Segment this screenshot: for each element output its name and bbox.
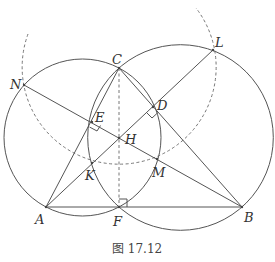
geometry-figure: C L N D E H K M A F B 图 17.12 bbox=[0, 0, 275, 262]
point-dots bbox=[23, 49, 243, 208]
label-a: A bbox=[34, 212, 44, 227]
label-l: L bbox=[214, 35, 224, 50]
right-angle-mark-d bbox=[147, 113, 158, 119]
label-f: F bbox=[112, 214, 123, 229]
label-c: C bbox=[112, 52, 122, 67]
segment-al bbox=[46, 50, 213, 207]
segment-bc bbox=[119, 68, 242, 207]
figure-caption: 图 17.12 bbox=[112, 242, 162, 256]
label-d: D bbox=[156, 98, 168, 113]
label-h: H bbox=[124, 132, 137, 147]
label-n: N bbox=[9, 77, 22, 92]
label-m: M bbox=[151, 165, 166, 180]
label-k: K bbox=[84, 168, 96, 183]
segment-ac bbox=[46, 68, 119, 207]
label-b: B bbox=[243, 210, 254, 225]
label-e: E bbox=[94, 110, 105, 125]
